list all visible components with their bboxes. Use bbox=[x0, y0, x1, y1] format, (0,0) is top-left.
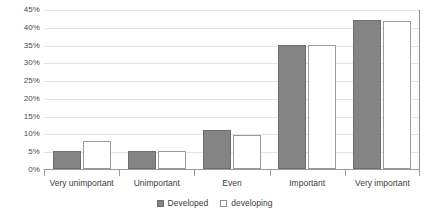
bar bbox=[158, 151, 186, 169]
x-axis-category-labels: Very unimportantUnimportantEvenImportant… bbox=[44, 178, 420, 192]
y-axis-tick-label: 40% bbox=[24, 24, 40, 32]
x-axis-category-label: Very unimportant bbox=[49, 178, 113, 188]
bar bbox=[308, 45, 336, 169]
bar-group bbox=[194, 10, 269, 170]
bar-group bbox=[270, 10, 345, 170]
y-axis-tick-label: 30% bbox=[24, 59, 40, 67]
category-tick bbox=[419, 170, 420, 176]
category-tick bbox=[194, 170, 195, 176]
bar-group bbox=[345, 10, 420, 170]
y-axis-tick-label: 15% bbox=[24, 113, 40, 121]
category-tick bbox=[345, 170, 346, 176]
bar bbox=[278, 45, 306, 169]
y-axis-tick-label: 45% bbox=[24, 6, 40, 14]
y-axis-tick-label: 25% bbox=[24, 77, 40, 85]
y-axis: 0%5%10%15%20%25%30%35%40%45% bbox=[0, 10, 44, 175]
bars-layer bbox=[44, 10, 420, 170]
legend-label: Developed bbox=[168, 199, 209, 208]
bar bbox=[83, 141, 111, 169]
x-axis-category-label: Unimportant bbox=[134, 178, 180, 188]
bar bbox=[353, 20, 381, 169]
bar bbox=[233, 135, 261, 169]
bar bbox=[383, 21, 411, 169]
y-axis-tick-label: 0% bbox=[28, 166, 40, 174]
x-axis-category-label: Very important bbox=[355, 178, 410, 188]
plot-right-border bbox=[419, 10, 420, 170]
category-tick bbox=[44, 170, 45, 176]
plot-area bbox=[44, 10, 420, 170]
bar-chart: 0%5%10%15%20%25%30%35%40%45% Very unimpo… bbox=[0, 0, 429, 216]
bar bbox=[203, 130, 231, 169]
bar-group bbox=[119, 10, 194, 170]
bar bbox=[53, 151, 81, 169]
bar-group bbox=[44, 10, 119, 170]
category-tick bbox=[119, 170, 120, 176]
y-axis-tick-label: 5% bbox=[28, 148, 40, 156]
x-axis-category-label: Even bbox=[222, 178, 241, 188]
category-tick bbox=[270, 170, 271, 176]
bar bbox=[128, 151, 156, 169]
y-axis-tick-label: 20% bbox=[24, 95, 40, 103]
legend-entry[interactable]: developing bbox=[220, 199, 272, 208]
y-axis-tick-label: 35% bbox=[24, 42, 40, 50]
legend-swatch-icon bbox=[157, 200, 164, 207]
category-tick-marks bbox=[44, 170, 420, 176]
chart-legend: Developeddeveloping bbox=[0, 196, 429, 210]
legend-label: developing bbox=[231, 199, 272, 208]
legend-swatch-icon bbox=[220, 200, 227, 207]
legend-entry[interactable]: Developed bbox=[157, 199, 209, 208]
y-axis-tick-label: 10% bbox=[24, 130, 40, 138]
x-axis-category-label: Important bbox=[289, 178, 325, 188]
